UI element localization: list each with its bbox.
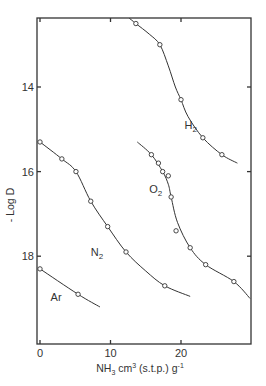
data-point-o2 xyxy=(232,279,236,283)
curve-n2 xyxy=(40,142,190,296)
x-tick-label: 10 xyxy=(104,347,116,359)
data-point-o2 xyxy=(203,262,207,266)
chart: 01020141618 H2O2N2Ar - Log D NH3 cm3 (s.… xyxy=(0,0,266,386)
x-tick-label: 20 xyxy=(175,347,187,359)
series-label-h2: H2 xyxy=(185,119,198,134)
y-axis-label: - Log D xyxy=(4,187,16,222)
data-point-h2 xyxy=(134,21,138,25)
x-tick-label: 0 xyxy=(37,347,43,359)
series: H2O2N2Ar xyxy=(38,17,250,307)
data-point-o2 xyxy=(169,195,173,199)
series-label-o2: O2 xyxy=(149,183,163,198)
curve-h2 xyxy=(128,17,237,163)
data-point-o2 xyxy=(160,169,164,173)
data-point-o2 xyxy=(174,229,178,233)
data-point-o2 xyxy=(188,246,192,250)
data-point-o2 xyxy=(149,152,153,156)
series-o2 xyxy=(137,142,250,299)
data-point-n2 xyxy=(89,199,93,203)
data-point-h2 xyxy=(158,43,162,47)
data-point-n2 xyxy=(163,284,167,288)
data-point-h2 xyxy=(201,136,205,140)
data-point-n2 xyxy=(124,250,128,254)
data-point-n2 xyxy=(38,140,42,144)
curve-o2 xyxy=(137,142,250,299)
data-point-h2 xyxy=(220,152,224,156)
series-ar xyxy=(38,267,100,307)
ticks: 01020141618 xyxy=(22,18,251,359)
data-point-ar xyxy=(76,292,80,296)
series-label-ar: Ar xyxy=(51,291,62,303)
y-tick-label: 18 xyxy=(22,250,34,262)
data-point-n2 xyxy=(74,169,78,173)
data-point-ar xyxy=(38,267,42,271)
axes xyxy=(37,18,251,344)
y-tick-label: 14 xyxy=(22,81,34,93)
series-h2 xyxy=(128,17,237,163)
data-point-n2 xyxy=(60,157,64,161)
plot-frame xyxy=(37,18,251,344)
data-point-h2 xyxy=(179,97,183,101)
data-point-o2 xyxy=(166,174,170,178)
data-point-o2 xyxy=(156,161,160,165)
series-n2 xyxy=(38,140,190,297)
y-tick-label: 16 xyxy=(22,166,34,178)
x-axis-label: NH3 cm3 (s.t.p.) g-1 xyxy=(96,362,184,376)
curve-ar xyxy=(40,269,100,307)
data-point-n2 xyxy=(105,224,109,228)
series-label-n2: N2 xyxy=(91,246,104,261)
